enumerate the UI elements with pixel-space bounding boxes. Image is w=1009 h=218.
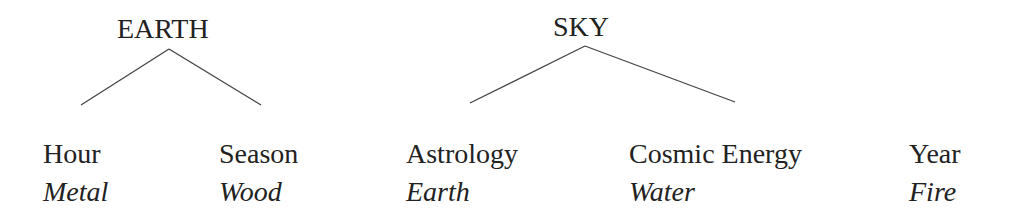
node-season: Season xyxy=(219,140,298,168)
edge-earth-hour xyxy=(81,49,169,105)
node-earth: EARTH xyxy=(117,15,209,43)
node-sky: SKY xyxy=(553,13,609,41)
element-metal: Metal xyxy=(43,178,108,206)
node-hour: Hour xyxy=(43,140,101,168)
node-year: Year xyxy=(909,140,961,168)
element-water: Water xyxy=(629,178,695,206)
element-earth: Earth xyxy=(406,178,470,206)
element-fire: Fire xyxy=(909,178,956,206)
node-astrology: Astrology xyxy=(406,140,518,168)
element-wood: Wood xyxy=(219,178,282,206)
edge-sky-astrology xyxy=(470,46,585,103)
edge-sky-cosmic-energy xyxy=(585,46,735,102)
edge-earth-season xyxy=(169,49,261,105)
node-cosmic-energy: Cosmic Energy xyxy=(629,140,802,168)
